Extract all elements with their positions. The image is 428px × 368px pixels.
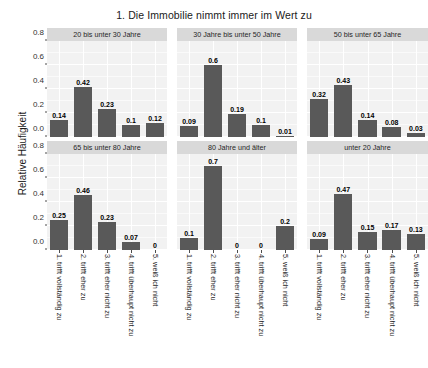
y-tick-label: 0.8 xyxy=(33,28,44,37)
bar[interactable] xyxy=(310,99,328,137)
bar[interactable] xyxy=(334,85,352,137)
bar[interactable] xyxy=(382,127,400,137)
panel-plot-area: 0.250.460.230.070 xyxy=(47,154,167,250)
y-tick-mark xyxy=(45,64,48,65)
bar-slot: 0.14 xyxy=(47,41,71,137)
x-tick-label: 2. trifft eher zu xyxy=(209,254,218,301)
y-tick-mark xyxy=(45,40,48,41)
x-tick-label: 2. trifft eher zu xyxy=(79,254,88,301)
bar[interactable] xyxy=(180,126,198,137)
x-tick-label: 2. trifft eher zu xyxy=(339,254,348,301)
bar-value-label: 0.1 xyxy=(249,117,273,124)
x-tick-mark xyxy=(83,250,84,253)
bar-value-label: 0.43 xyxy=(331,77,355,84)
x-tick-mark xyxy=(107,250,108,253)
bar-series: 0.10.7000.2 xyxy=(177,154,297,250)
bar[interactable] xyxy=(310,239,328,250)
chart-title: 1. Die Immobilie nimmt immer im Wert zu xyxy=(0,9,428,21)
bar-slot: 0 xyxy=(225,154,249,250)
bar-slot: 0.7 xyxy=(201,154,225,250)
x-tick-slot: 5. weiß ich nicht xyxy=(273,250,297,345)
bar-slot: 0.23 xyxy=(95,154,119,250)
x-tick-mark xyxy=(343,250,344,253)
panel-title: 20 bis unter 30 Jahre xyxy=(47,28,167,41)
bar[interactable] xyxy=(382,230,400,250)
y-tick-label: 0.6 xyxy=(33,165,44,174)
bar-value-label: 0.23 xyxy=(95,101,119,108)
bar-value-label: 0.32 xyxy=(307,91,331,98)
bar[interactable] xyxy=(204,166,222,250)
x-tick-label: 1. trifft vollständig zu xyxy=(55,254,64,320)
bar[interactable] xyxy=(358,232,376,250)
x-tick-slot: 5. weiß ich nicht xyxy=(143,250,167,345)
bar-slot: 0 xyxy=(249,154,273,250)
bar-value-label: 0.03 xyxy=(404,125,428,132)
bar-slot: 0.17 xyxy=(380,154,404,250)
x-axis: 1. trifft vollständig zu2. trifft eher z… xyxy=(307,250,428,345)
x-tick-mark xyxy=(213,250,214,253)
bar[interactable] xyxy=(407,133,425,137)
bar-value-label: 0 xyxy=(249,242,273,249)
bar[interactable] xyxy=(228,114,246,137)
bar-slot: 0.1 xyxy=(249,41,273,137)
panel-plot-area: 0.10.7000.2 xyxy=(177,154,297,250)
bar-value-label: 0.19 xyxy=(225,106,249,113)
x-axis: 1. trifft vollständig zu2. trifft eher z… xyxy=(177,250,297,345)
bar-slot: 0.42 xyxy=(71,41,95,137)
x-tick-mark xyxy=(189,250,190,253)
facet-row: 65 bis unter 80 Jahre0.250.460.230.0700.… xyxy=(47,141,428,250)
y-tick-mark xyxy=(45,201,48,202)
bar[interactable] xyxy=(252,125,270,137)
bar[interactable] xyxy=(74,87,92,137)
bar-value-label: 0.17 xyxy=(380,222,404,229)
y-tick-label: 0.2 xyxy=(33,213,44,222)
y-tick-mark xyxy=(45,177,48,178)
x-tick-mark xyxy=(237,250,238,253)
bar[interactable] xyxy=(204,65,222,137)
x-tick-label: 5. weiß ich nicht xyxy=(151,254,160,306)
bar-slot: 0.1 xyxy=(119,41,143,137)
bar-value-label: 0.25 xyxy=(47,212,71,219)
y-axis-label: Relative Häufigkeit xyxy=(17,74,28,234)
panel-title: 50 bis unter 65 Jahre xyxy=(307,28,428,41)
bar-slot: 0.15 xyxy=(355,154,379,250)
bar[interactable] xyxy=(50,220,68,250)
x-tick-label: 4. trifft überhaupt nicht zu xyxy=(127,254,136,336)
bar[interactable] xyxy=(146,123,164,137)
bar[interactable] xyxy=(407,234,425,250)
x-tick-slot: 2. trifft eher zu xyxy=(331,250,355,345)
bar-value-label: 0.09 xyxy=(177,118,201,125)
facet-panel: 80 Jahre und älter0.10.7000.21. trifft v… xyxy=(177,141,297,250)
panel-plot-area: 0.140.420.230.10.12 xyxy=(47,41,167,137)
y-tick-label: 0.4 xyxy=(33,189,44,198)
bar[interactable] xyxy=(98,222,116,250)
panel-plot-area: 0.090.470.150.170.13 xyxy=(307,154,428,250)
bar-value-label: 0.2 xyxy=(273,218,297,225)
bar-value-label: 0.07 xyxy=(119,234,143,241)
bar-slot: 0.14 xyxy=(355,41,379,137)
bar-slot: 0.25 xyxy=(47,154,71,250)
y-tick-mark xyxy=(45,225,48,226)
bar-series: 0.140.420.230.10.12 xyxy=(47,41,167,137)
x-tick-label: 1. trifft vollständig zu xyxy=(315,254,324,320)
bar[interactable] xyxy=(74,195,92,250)
bar-slot: 0.2 xyxy=(273,154,297,250)
x-tick-mark xyxy=(59,250,60,253)
bar[interactable] xyxy=(180,238,198,250)
bar-slot: 0.43 xyxy=(331,41,355,137)
bar[interactable] xyxy=(122,242,140,250)
bar-series: 0.250.460.230.070 xyxy=(47,154,167,250)
x-tick-label: 5. weiß ich nicht xyxy=(281,254,290,306)
bar-value-label: 0.14 xyxy=(355,112,379,119)
bar-value-label: 0.01 xyxy=(273,128,297,135)
bar[interactable] xyxy=(358,120,376,137)
bar[interactable] xyxy=(98,109,116,137)
x-tick-slot: 4. trifft überhaupt nicht zu xyxy=(380,250,404,345)
bar[interactable] xyxy=(122,125,140,137)
x-tick-slot: 4. trifft überhaupt nicht zu xyxy=(249,250,273,345)
bar[interactable] xyxy=(276,136,294,137)
bar[interactable] xyxy=(276,226,294,250)
bar-slot: 0 xyxy=(143,154,167,250)
bar[interactable] xyxy=(334,194,352,250)
bar[interactable] xyxy=(50,120,68,137)
